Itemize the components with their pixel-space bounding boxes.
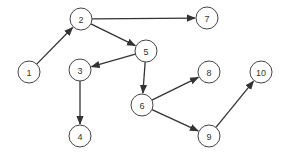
node-5: 5 [135, 40, 157, 62]
node-label: 3 [77, 66, 82, 76]
edge-2-to-7 [92, 18, 195, 19]
directed-graph-diagram: 12345678910 [0, 0, 288, 156]
edge-6-to-9 [152, 110, 198, 131]
node-label: 6 [139, 101, 144, 111]
edge-5-to-3 [92, 54, 136, 67]
node-label: 9 [206, 132, 211, 142]
node-8: 8 [198, 61, 220, 83]
edge-6-to-8 [152, 77, 198, 100]
node-2: 2 [70, 8, 92, 30]
node-9: 9 [198, 125, 220, 147]
node-label: 10 [256, 68, 266, 78]
node-10: 10 [250, 61, 272, 83]
node-7: 7 [196, 7, 218, 29]
node-label: 4 [77, 132, 82, 142]
edge-9-to-10 [216, 81, 253, 127]
node-label: 5 [143, 47, 148, 57]
node-3: 3 [69, 59, 91, 81]
edge-2-to-5 [91, 24, 135, 46]
edge-5-to-6 [143, 62, 145, 93]
node-1: 1 [18, 61, 40, 83]
node-6: 6 [131, 94, 153, 116]
node-4: 4 [69, 125, 91, 147]
node-label: 1 [26, 68, 31, 78]
nodes-layer: 12345678910 [18, 7, 272, 147]
node-label: 7 [204, 14, 209, 24]
node-label: 2 [78, 15, 83, 25]
edge-1-to-2 [37, 28, 73, 65]
node-label: 8 [206, 68, 211, 78]
